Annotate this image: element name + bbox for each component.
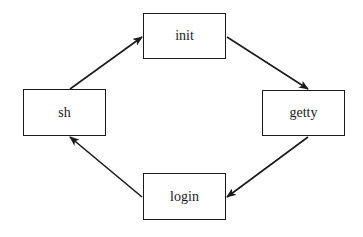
node-sh-label: sh — [58, 105, 70, 121]
edge-init-to-getty-arrow — [227, 37, 308, 89]
node-getty: getty — [262, 90, 345, 136]
node-sh: sh — [23, 89, 106, 136]
node-getty-label: getty — [290, 105, 318, 121]
node-login-label: login — [170, 189, 199, 205]
node-login: login — [143, 173, 226, 220]
edge-login-to-sh-arrow — [70, 137, 142, 197]
edge-sh-to-init-arrow — [70, 37, 142, 89]
diagram-canvas: init getty login sh — [0, 0, 363, 237]
node-init: init — [143, 13, 226, 59]
edge-getty-to-login-arrow — [227, 137, 308, 197]
node-init-label: init — [175, 28, 194, 44]
